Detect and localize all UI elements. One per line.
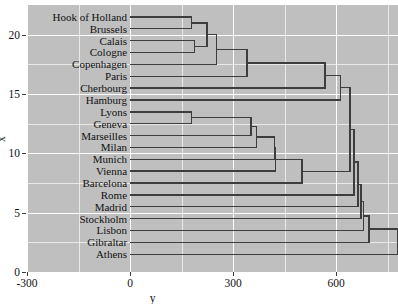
leaf-label: Milan [101, 142, 127, 153]
dendrogram-link-m18 [130, 202, 364, 231]
dendrogram-link-m5 [130, 50, 247, 77]
x-tick-label: -300 [16, 277, 37, 289]
dendrogram-link-m4 [130, 35, 217, 65]
y-tick-mark [22, 94, 26, 95]
leaf-label: Copenhagen [72, 59, 127, 70]
leaf-label: Brussels [90, 23, 127, 34]
leaf-label: Gibraltar [87, 237, 127, 248]
dendrogram-link-m2 [130, 41, 195, 53]
dendrogram-link-m17 [130, 184, 361, 218]
x-axis-title: y [150, 292, 156, 304]
y-tick-mark [22, 213, 26, 214]
dendrogram-link-m19 [130, 216, 369, 242]
leaf-label: Athens [96, 249, 127, 260]
dendrogram-link-m12 [130, 63, 325, 88]
leaf-label: Madrid [95, 201, 127, 212]
x-tick-label: 300 [224, 277, 241, 289]
leaf-label: Cherbourg [80, 83, 127, 94]
y-tick-label: 10 [4, 148, 20, 159]
dendrogram-link-m3 [191, 23, 207, 47]
plot-panel: Hook of HollandBrusselsCalaisCologneCope… [27, 5, 398, 272]
dendrogram-link-m16 [130, 162, 358, 207]
leaf-label: Hamburg [86, 94, 127, 105]
dendrogram-link-m15 [130, 130, 354, 195]
y-tick-label: 20 [4, 29, 20, 40]
leaf-label: Paris [105, 71, 127, 82]
leaf-label: Lyons [100, 106, 127, 117]
leaf-label: Munich [93, 154, 127, 165]
x-tick-label: 0 [127, 277, 133, 289]
leaf-label: Marseilles [81, 130, 127, 141]
y-tick-mark [22, 35, 26, 36]
leaf-label: Rome [101, 189, 127, 200]
dendrogram-link-m8 [130, 127, 256, 148]
dendrogram-link-m9 [130, 137, 274, 159]
dendrogram-link-m6 [130, 112, 191, 124]
y-axis-title: x [0, 136, 7, 142]
y-tick-mark [22, 272, 26, 273]
x-tick-label: 600 [328, 277, 345, 289]
dendrogram-link-m1 [130, 17, 191, 29]
leaf-label: Calais [100, 35, 128, 46]
x-tick-mark [27, 272, 28, 276]
y-tick-label: 0 [4, 267, 20, 278]
leaf-label: Vienna [96, 166, 127, 177]
leaf-label: Cologne [90, 47, 127, 58]
leaf-label: Barcelona [82, 178, 127, 189]
y-tick-mark [22, 153, 26, 154]
x-tick-mark [233, 272, 234, 276]
x-tick-mark [336, 272, 337, 276]
y-tick-label: 15 [4, 89, 20, 100]
y-tick-label: 5 [4, 207, 20, 218]
leaf-label: Hook of Holland [53, 11, 128, 22]
leaf-label: Geneva [93, 118, 127, 129]
leaf-label: Lisbon [97, 225, 128, 236]
leaf-label: Stockholm [79, 213, 127, 224]
x-tick-mark [130, 272, 131, 276]
